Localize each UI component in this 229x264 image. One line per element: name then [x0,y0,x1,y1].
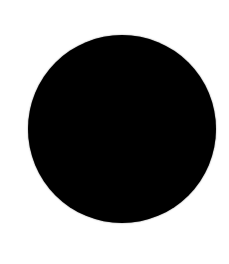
black-circle-shape [28,35,216,223]
canvas [0,0,229,264]
